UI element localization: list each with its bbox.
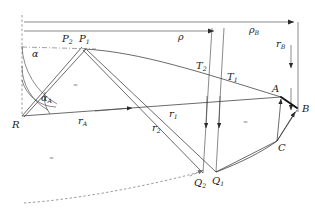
label-P1: P1 (78, 33, 90, 45)
arrow-C-to-A (277, 99, 281, 141)
label-Q2: Q2 (194, 177, 206, 189)
upper-boundary-arc (84, 49, 281, 97)
label-alpha-a: αA (41, 92, 52, 104)
vertical-ray-line-2 (203, 28, 212, 173)
hatch-mark-upper-left: ≈ (73, 81, 78, 88)
label-r-1: r1 (169, 108, 178, 120)
label-B: B (301, 103, 309, 114)
label-rho: ρ (177, 31, 184, 42)
angle-arc-alpha (22, 46, 57, 104)
label-T1: T1 (227, 71, 238, 83)
label-C: C (278, 142, 286, 153)
label-P2: P2 (61, 33, 73, 45)
technical-diagram-svg: R P2 P1 α αA ρ ρB rB rA (0, 0, 315, 216)
label-alpha: α (32, 48, 39, 59)
figure-canvas: R P2 P1 α αA ρ ρB rB rA (0, 0, 315, 216)
label-Q1: Q1 (212, 175, 224, 187)
ray-R-to-A (22, 97, 281, 116)
label-R: R (11, 119, 20, 130)
segment-Q1-to-C (216, 141, 277, 172)
arrow-C-to-B (277, 112, 295, 141)
hatch-mark-right: ≈ (243, 118, 248, 125)
highlighted-segment-A-B (281, 97, 297, 108)
ray-P2-to-Q2 (83, 50, 203, 173)
r-a-direction-arrow (95, 108, 132, 111)
lower-dashed-curve (24, 172, 200, 203)
label-T2: T2 (196, 60, 207, 72)
label-rho-b: ρB (248, 24, 260, 36)
label-A: A (271, 83, 279, 94)
hatch-mark-lower-left: ≈ (49, 154, 54, 161)
angle-arc-alpha-inner (22, 66, 48, 110)
label-r-a: rA (78, 115, 88, 127)
label-r-b: rB (276, 38, 286, 50)
label-r-2: r2 (152, 122, 161, 134)
